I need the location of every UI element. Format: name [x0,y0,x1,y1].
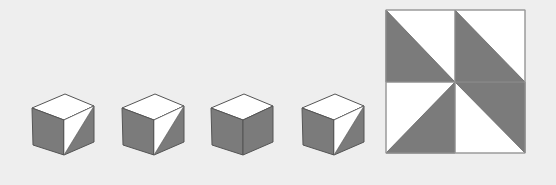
puzzle-figure [0,0,556,185]
folding-pattern-square [386,10,525,153]
